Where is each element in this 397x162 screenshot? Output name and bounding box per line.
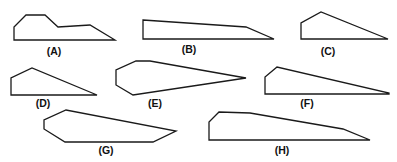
shape-f-outline: [265, 67, 389, 94]
shape-d-label: (D): [36, 97, 51, 109]
shape-h-outline: [209, 112, 370, 140]
shape-b: (B): [143, 20, 274, 55]
shape-f: (F): [265, 67, 389, 109]
shape-g-outline: [44, 110, 176, 142]
shape-e: (E): [116, 61, 246, 109]
shape-g-label: (G): [98, 144, 113, 156]
shape-d-outline: [11, 68, 97, 95]
shape-b-outline: [143, 20, 274, 39]
shape-d: (D): [11, 68, 97, 109]
shape-b-label: (B): [182, 43, 197, 55]
shape-c-outline: [301, 12, 388, 39]
shape-c: (C): [301, 12, 388, 57]
shape-e-outline: [116, 61, 246, 95]
shape-a-label: (A): [47, 45, 62, 57]
shape-f-label: (F): [300, 97, 313, 109]
shape-a-outline: [14, 15, 115, 40]
shape-a: (A): [14, 15, 115, 57]
shape-h: (H): [209, 112, 370, 156]
shape-h-label: (H): [275, 144, 290, 156]
shape-e-label: (E): [148, 97, 162, 109]
shape-g: (G): [44, 110, 176, 156]
shapes-diagram: (A) (B) (C) (D) (E) (F) (G) (H): [0, 0, 397, 162]
shape-c-label: (C): [321, 45, 336, 57]
